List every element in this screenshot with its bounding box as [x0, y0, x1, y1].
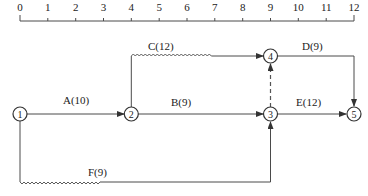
activity-c-label: C(12): [148, 40, 174, 53]
arrow-f: [100, 122, 271, 182]
node-1-label: 1: [18, 109, 23, 120]
axis-tick-label: 11: [321, 1, 332, 13]
activity-c: C(12): [131, 40, 263, 107]
axis-tick-label: 1: [45, 1, 51, 13]
node-1: 1: [13, 107, 27, 121]
time-axis: 0 1 2 3 4 5 6 7 8 9 10 11 12: [17, 1, 359, 21]
activity-e-label: E(12): [296, 96, 321, 109]
axis-tick-label: 12: [349, 1, 360, 13]
network-diagram: 0 1 2 3 4 5 6 7 8 9 10 11 12 A(10) B(9) …: [0, 0, 368, 196]
axis-tick-label: 6: [184, 1, 190, 13]
axis-tick-label: 3: [101, 1, 107, 13]
activity-a: A(10): [27, 94, 124, 114]
free-float-wave-f: [20, 182, 100, 184]
axis-tick-label: 5: [156, 1, 162, 13]
axis-tick-label: 9: [268, 1, 274, 13]
activity-b: B(9): [138, 96, 263, 114]
axis-tick-label: 0: [17, 1, 23, 13]
activity-b-label: B(9): [171, 96, 192, 109]
axis-tick-label: 10: [293, 1, 305, 13]
axis-tick-label: 2: [73, 1, 79, 13]
axis-tick-label: 4: [129, 1, 135, 13]
node-5: 5: [347, 107, 361, 121]
activity-a-label: A(10): [63, 94, 90, 107]
node-4: 4: [264, 49, 278, 63]
activity-f: F(9): [20, 121, 271, 184]
node-3: 3: [264, 107, 278, 121]
node-2-label: 2: [129, 109, 134, 120]
activity-d-label: D(9): [302, 40, 323, 53]
activity-f-label: F(9): [88, 166, 107, 179]
activity-e: E(12): [278, 96, 347, 114]
axis-tick-label: 7: [212, 1, 218, 13]
node-5-label: 5: [352, 109, 357, 120]
node-2: 2: [124, 107, 138, 121]
node-3-label: 3: [268, 109, 273, 120]
free-float-wave-c: [131, 54, 211, 56]
node-4-label: 4: [268, 51, 273, 62]
axis-tick-label: 8: [240, 1, 246, 13]
